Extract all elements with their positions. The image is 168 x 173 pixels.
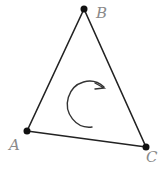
vertex-label-a: A — [9, 138, 20, 153]
vertex-b-point — [81, 6, 88, 13]
vertex-a-point — [24, 128, 31, 135]
triangle-abc — [27, 9, 146, 147]
triangle-diagram — [0, 0, 168, 173]
vertex-label-b: B — [96, 6, 107, 21]
vertex-label-c: C — [146, 150, 157, 165]
clockwise-arrow-icon — [67, 81, 104, 127]
